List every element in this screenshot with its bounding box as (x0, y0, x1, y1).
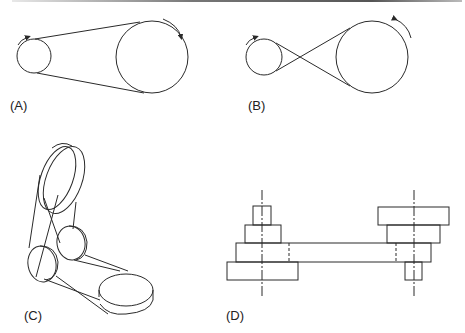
small-pulley (246, 39, 282, 75)
belt-bottom (37, 73, 144, 93)
panel-label-c: (C) (24, 308, 42, 323)
top-pulley (35, 141, 93, 219)
belt-drive-diagram (0, 0, 465, 333)
panel-d-cone-pulleys (227, 190, 449, 296)
belt (44, 279, 100, 300)
panel-label-b: (B) (248, 98, 265, 113)
guide-pulley-left (25, 244, 59, 284)
bottom-pulley (99, 274, 153, 306)
bottom-pulley-rim (99, 290, 153, 314)
large-pulley (116, 21, 188, 93)
rotation-arrow-icon (395, 19, 411, 38)
belt (85, 255, 128, 271)
belt (29, 175, 40, 248)
large-pulley (336, 21, 408, 93)
left-step-2 (245, 225, 281, 243)
belt-top (35, 22, 140, 39)
belt (73, 202, 76, 229)
belt-bar (236, 243, 431, 262)
panel-b-crossed-belt (246, 19, 411, 93)
panel-label-a: (A) (10, 98, 27, 113)
panel-a-open-belt (17, 19, 188, 93)
panel-label-d: (D) (226, 308, 244, 323)
panel-c-quarter-turn-belt (25, 141, 153, 314)
small-pulley (17, 39, 51, 73)
guide-pulley-right-rim (69, 226, 87, 260)
rotation-arrow-icon (163, 19, 181, 37)
rotation-arrow-icon (246, 37, 256, 45)
